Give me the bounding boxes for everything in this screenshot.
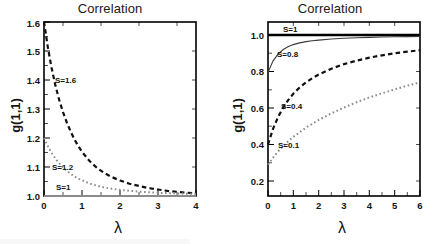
svg-text:1.6: 1.6 [27,18,40,29]
svg-text:2: 2 [316,200,321,211]
svg-text:4: 4 [367,200,373,211]
svg-text:1.5: 1.5 [27,46,41,57]
curve-label-s12: S=1.2 [52,163,74,172]
svg-text:0.4: 0.4 [251,139,265,150]
svg-text:0.8: 0.8 [251,66,264,77]
svg-text:0.2: 0.2 [251,176,264,187]
svg-text:1.1: 1.1 [27,162,41,173]
curve-label-s16: S=1.6 [55,76,77,85]
figure-container: Correlation g(1,1) λ 1.0 1.1 1.2 1.3 1.4… [0,0,440,246]
svg-text:1.0: 1.0 [251,30,264,41]
svg-text:3: 3 [341,200,346,211]
curve-label-s1-right: S=1 [283,25,298,34]
svg-text:1: 1 [79,200,85,211]
plot-panel-left: Correlation g(1,1) λ 1.0 1.1 1.2 1.3 1.4… [0,0,220,246]
svg-text:0: 0 [41,200,46,211]
svg-text:3: 3 [155,200,160,211]
scan-artifact [0,239,190,244]
series-curve-s04 [268,50,420,144]
curve-label-s08: S=0.8 [277,50,299,59]
plot-panel-right: Correlation g(1,1) λ 1.0 0.8 0.6 0.4 0.2 [220,0,440,246]
svg-text:0.6: 0.6 [251,103,264,114]
curve-label-s01: S=0.1 [278,141,300,150]
svg-text:2: 2 [117,200,122,211]
svg-text:1.4: 1.4 [27,75,41,86]
curve-label-s04: S=0.4 [281,102,303,111]
svg-text:5: 5 [392,200,398,211]
svg-text:6: 6 [417,200,422,211]
svg-text:1.2: 1.2 [27,133,40,144]
svg-text:0: 0 [265,200,270,211]
plot-area-left: 1.0 1.1 1.2 1.3 1.4 1.5 1.6 [0,0,220,246]
svg-text:4: 4 [193,200,199,211]
svg-text:1.0: 1.0 [27,191,40,202]
svg-text:1: 1 [291,200,297,211]
y-axis-ticks-left: 1.0 1.1 1.2 1.3 1.4 1.5 1.6 [27,18,196,202]
plot-area-right: 1.0 0.8 0.6 0.4 0.2 [220,0,440,246]
series-curve-s01 [268,82,420,164]
curve-label-s1: S=1 [56,183,71,192]
svg-text:1.3: 1.3 [27,104,40,115]
